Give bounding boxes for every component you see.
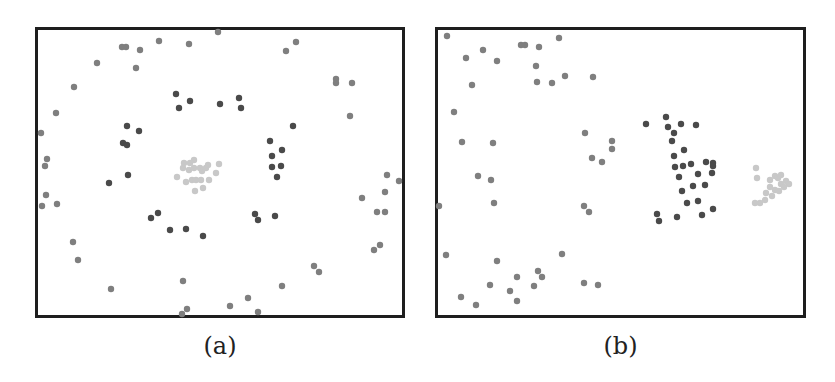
- data-point: [753, 165, 759, 171]
- data-point: [699, 212, 705, 218]
- data-point: [536, 44, 542, 50]
- data-point: [690, 183, 696, 189]
- data-point: [776, 188, 782, 194]
- data-point: [767, 177, 773, 183]
- data-point: [562, 73, 568, 79]
- data-point: [710, 206, 716, 212]
- data-point: [475, 173, 481, 179]
- data-point: [669, 138, 675, 144]
- data-point: [556, 35, 562, 41]
- data-point: [752, 200, 758, 206]
- data-point: [488, 177, 494, 183]
- data-point: [559, 251, 565, 257]
- data-point: [443, 252, 449, 258]
- data-point: [688, 161, 694, 167]
- data-point: [663, 114, 669, 120]
- data-point: [436, 203, 442, 209]
- data-point: [507, 288, 513, 294]
- data-point: [539, 274, 545, 280]
- caption-b: (b): [561, 332, 681, 360]
- data-point: [582, 130, 588, 136]
- data-point: [671, 153, 677, 159]
- data-point: [609, 146, 615, 152]
- data-point: [710, 163, 716, 169]
- data-point: [522, 42, 528, 48]
- data-point: [589, 155, 595, 161]
- data-point: [463, 55, 469, 61]
- data-point: [769, 193, 775, 199]
- data-point: [533, 63, 539, 69]
- data-point: [695, 198, 701, 204]
- data-point: [534, 79, 540, 85]
- data-point: [490, 140, 496, 146]
- data-point: [709, 170, 715, 176]
- data-point: [491, 200, 497, 206]
- data-point: [480, 47, 486, 53]
- data-point: [767, 184, 773, 190]
- data-point: [487, 282, 493, 288]
- data-point: [672, 164, 678, 170]
- data-point: [581, 203, 587, 209]
- data-point: [681, 147, 687, 153]
- data-point: [676, 174, 682, 180]
- series-middle-cluster: [643, 114, 716, 224]
- data-point: [702, 182, 708, 188]
- data-point: [473, 302, 479, 308]
- data-point: [665, 124, 671, 130]
- data-point: [654, 211, 660, 217]
- data-point: [778, 172, 784, 178]
- data-point: [595, 282, 601, 288]
- data-point: [459, 139, 465, 145]
- data-point: [754, 175, 760, 181]
- data-point: [674, 214, 680, 220]
- data-point: [678, 121, 684, 127]
- data-point: [781, 184, 787, 190]
- data-point: [444, 33, 450, 39]
- data-point: [695, 171, 701, 177]
- data-point: [581, 280, 587, 286]
- data-point: [535, 268, 541, 274]
- data-point: [671, 130, 677, 136]
- series-right-cluster: [752, 165, 792, 206]
- data-point: [679, 188, 685, 194]
- data-point: [693, 122, 699, 128]
- data-point: [586, 209, 592, 215]
- data-point: [458, 294, 464, 300]
- data-point: [549, 80, 555, 86]
- data-point: [494, 58, 500, 64]
- data-point: [609, 138, 615, 144]
- data-point: [763, 190, 769, 196]
- data-point: [514, 274, 520, 280]
- data-point: [599, 159, 605, 165]
- data-point: [680, 163, 686, 169]
- data-point: [590, 74, 596, 80]
- data-point: [469, 82, 475, 88]
- data-point: [684, 200, 690, 206]
- data-point: [451, 109, 457, 115]
- data-point: [531, 283, 537, 289]
- data-point: [494, 258, 500, 264]
- scatter-plot-b: [0, 0, 835, 382]
- series-outer: [436, 33, 615, 308]
- data-point: [643, 121, 649, 127]
- data-point: [703, 159, 709, 165]
- data-point: [656, 218, 662, 224]
- data-point: [514, 298, 520, 304]
